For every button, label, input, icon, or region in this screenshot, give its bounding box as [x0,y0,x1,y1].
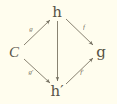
node-h-prime-mark-glyph: ′ [60,82,63,100]
commutative-diagram-figure: C h g h′ g g′ f f′ [0,0,117,104]
node-h-label: h [52,3,62,21]
arrow-C-to-h [24,20,50,45]
edge-label-h-prime-to-g: f′ [80,69,83,76]
node-h-prime-label: h [50,82,60,100]
node-h-prime: h′ [50,84,63,99]
edge-label-h-prime-to-g-prime: ′ [82,68,84,76]
node-g: g [96,45,106,60]
node-C-label: C [9,44,19,60]
edge-label-C-to-h: g [29,26,33,33]
edge-label-C-to-h-text: g [29,25,33,33]
edge-label-h-to-g: f [83,24,85,31]
arrow-h-to-g [66,19,93,45]
edge-label-C-to-h-prime-mark: ′ [32,68,34,76]
edge-label-h-to-g-text: f [83,23,85,31]
edge-label-C-to-h-prime: g′ [28,69,33,76]
node-C: C [9,45,19,60]
node-h: h [52,5,62,20]
node-g-label: g [96,43,106,61]
